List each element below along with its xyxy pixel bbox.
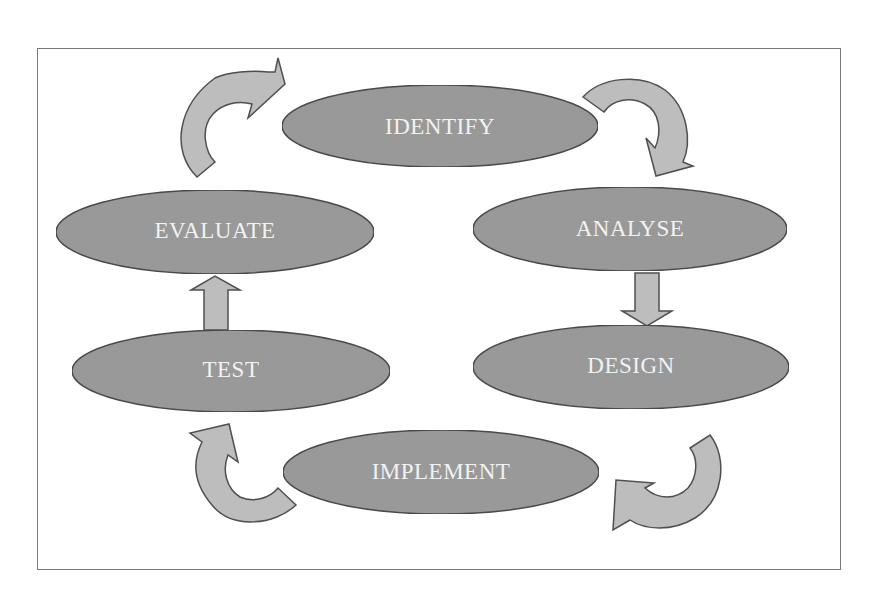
node-design: DESIGN bbox=[473, 325, 789, 409]
node-identify: IDENTIFY bbox=[282, 85, 598, 167]
node-implement: IMPLEMENT bbox=[283, 430, 599, 514]
node-label-test: TEST bbox=[203, 357, 260, 382]
curved-arrow-design-to-implement-icon bbox=[613, 435, 721, 530]
curved-arrow-evaluate-to-identify-icon bbox=[181, 58, 285, 177]
curved-arrow-identify-to-analyse-icon bbox=[583, 79, 693, 176]
block-arrow-up-test-to-evaluate-icon bbox=[191, 276, 240, 330]
cycle-diagram: IDENTIFY ANALYSE DESIGN IMPLEMENT TEST E… bbox=[0, 0, 878, 600]
node-label-design: DESIGN bbox=[587, 353, 674, 378]
node-label-evaluate: EVALUATE bbox=[154, 218, 275, 243]
block-arrow-down-analyse-to-design-icon bbox=[622, 273, 672, 326]
node-analyse: ANALYSE bbox=[473, 187, 787, 271]
node-evaluate: EVALUATE bbox=[56, 190, 374, 274]
curved-arrow-implement-to-test-icon bbox=[190, 424, 296, 522]
node-test: TEST bbox=[72, 330, 390, 412]
node-label-implement: IMPLEMENT bbox=[372, 459, 511, 484]
node-label-analyse: ANALYSE bbox=[576, 216, 685, 241]
node-label-identify: IDENTIFY bbox=[385, 114, 495, 139]
